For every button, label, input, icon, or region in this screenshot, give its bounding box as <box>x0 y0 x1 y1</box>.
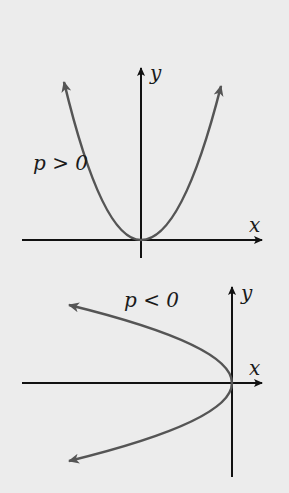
top-x-label: x <box>249 213 260 237</box>
bottom-condition-label: p < 0 <box>124 288 179 312</box>
top-y-label: y <box>149 61 162 85</box>
top-parabola-right <box>141 86 221 240</box>
bottom-y-label: y <box>240 281 253 305</box>
bottom-parabola-upper <box>69 305 232 383</box>
bottom-graph: y x p < 0 <box>22 281 262 477</box>
parabola-figure: y x p > 0 y x p < 0 <box>0 0 289 493</box>
bottom-x-label: x <box>249 356 260 380</box>
bottom-parabola-lower <box>69 383 232 461</box>
top-graph: y x p > 0 <box>22 61 262 258</box>
top-condition-label: p > 0 <box>33 151 88 175</box>
